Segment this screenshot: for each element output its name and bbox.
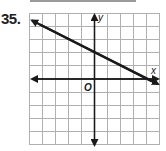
graphed-line-right-arrow bbox=[40, 25, 158, 85]
origin-label: O bbox=[84, 82, 92, 93]
x-axis-label: x bbox=[150, 65, 157, 76]
coordinate-graph: y x O bbox=[0, 0, 166, 151]
y-axis-label: y bbox=[97, 12, 104, 23]
